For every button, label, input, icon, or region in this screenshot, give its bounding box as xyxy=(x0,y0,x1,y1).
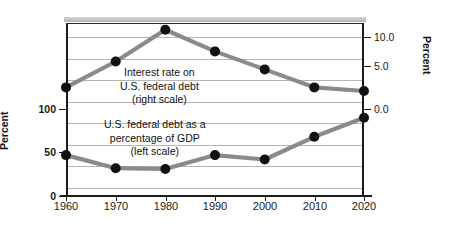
data-point xyxy=(210,46,220,56)
annotation-interest-line-3: (right scale) xyxy=(120,93,199,107)
data-point xyxy=(160,25,170,35)
series-line-interest-rate xyxy=(66,30,364,91)
data-point xyxy=(210,150,220,160)
annotation-interest-line-1: Interest rate on xyxy=(120,66,199,80)
annotation-interest-rate: Interest rate on U.S. federal debt (righ… xyxy=(120,66,199,107)
data-point xyxy=(111,57,121,67)
data-point xyxy=(160,164,170,174)
data-point xyxy=(111,163,121,173)
annotation-debt-line-3: (left scale) xyxy=(104,145,206,159)
annotation-debt-line-2: percentage of GDP xyxy=(104,132,206,146)
annotation-debt-gdp: U.S. federal debt as a percentage of GDP… xyxy=(104,118,206,159)
series-markers-interest-rate xyxy=(61,25,369,96)
annotation-debt-line-1: U.S. federal debt as a xyxy=(104,118,206,132)
data-point xyxy=(309,82,319,92)
annotation-interest-line-2: U.S. federal debt xyxy=(120,80,199,94)
data-point xyxy=(61,150,71,160)
data-point xyxy=(359,86,369,96)
data-point xyxy=(309,132,319,142)
data-point xyxy=(260,155,270,165)
chart-figure: 100 50 0 10.0 5.0 0.0 1960 1970 1980 199… xyxy=(0,0,454,229)
series-layer xyxy=(0,0,454,229)
data-point xyxy=(359,113,369,123)
data-point xyxy=(260,64,270,74)
data-point xyxy=(61,82,71,92)
